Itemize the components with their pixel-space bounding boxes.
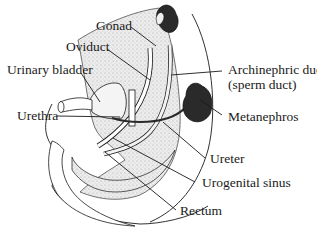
label-sperm-duct: (sperm duct) bbox=[228, 77, 297, 92]
label-urogenital-sinus: Urogenital sinus bbox=[202, 175, 291, 190]
label-metanephros: Metanephros bbox=[228, 109, 298, 124]
urogenital-diagram: Gonad Oviduct Urinary bladder Urethra Ar… bbox=[0, 0, 317, 233]
label-urethra: Urethra bbox=[17, 108, 58, 123]
label-ureter: Ureter bbox=[210, 151, 245, 166]
metanephros bbox=[183, 83, 212, 122]
urethra-opening bbox=[58, 102, 64, 113]
label-archinephric-duct: Archinephric duct bbox=[228, 62, 317, 77]
label-oviduct: Oviduct bbox=[66, 39, 110, 54]
label-urinary-bladder: Urinary bladder bbox=[7, 62, 93, 77]
label-rectum: Rectum bbox=[180, 203, 222, 218]
label-gonad: Gonad bbox=[96, 18, 132, 33]
leader-archinephric-duct bbox=[171, 71, 222, 75]
urethra-tube bbox=[60, 98, 92, 112]
